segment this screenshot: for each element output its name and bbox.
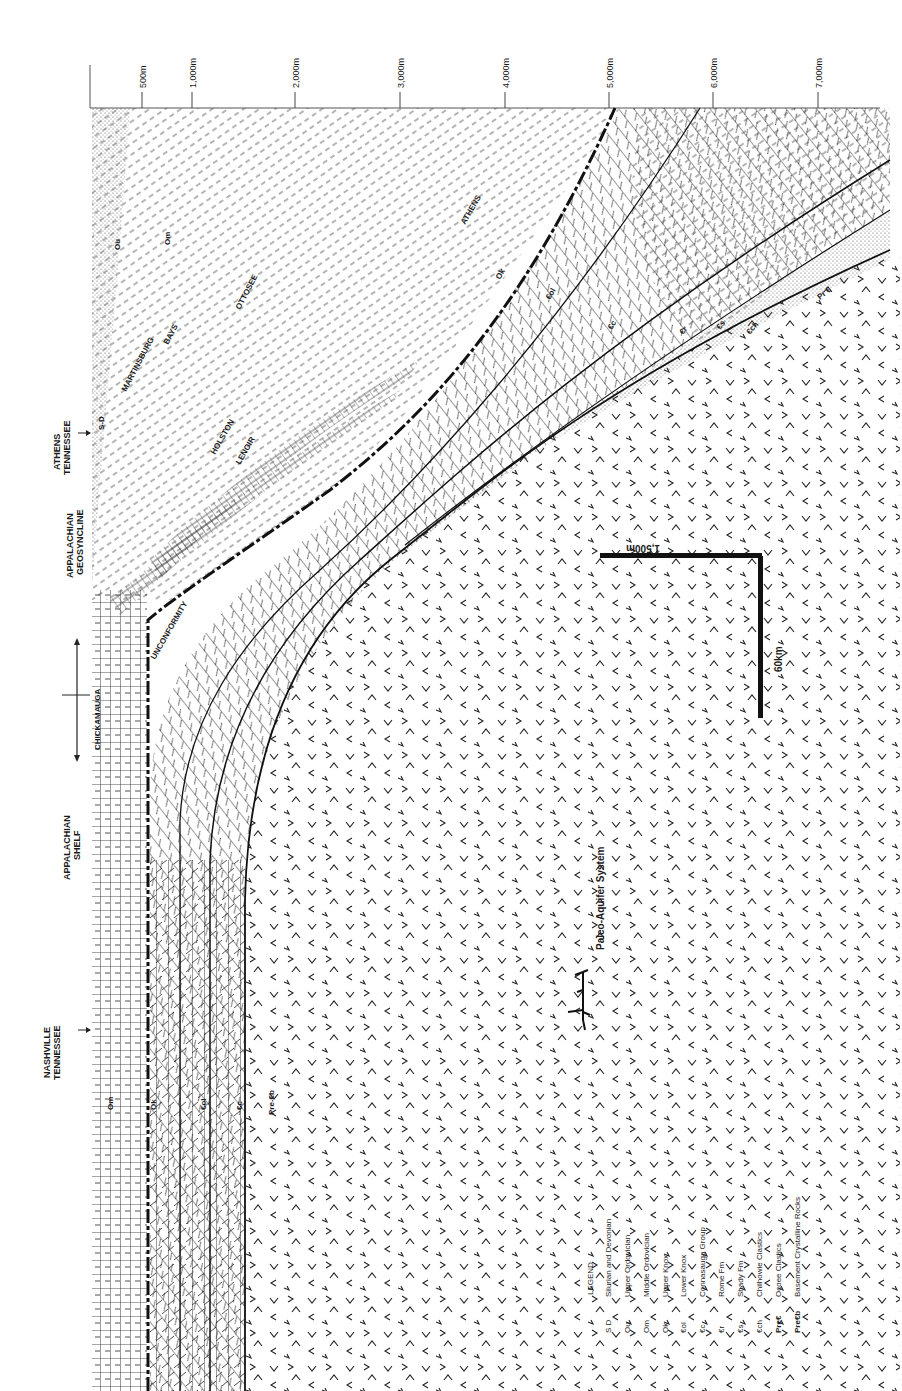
legend-name: Rome Fm: [717, 1262, 726, 1297]
legend-name: Chilhowie Clastics: [755, 1232, 764, 1297]
loc-athens-1: ATHENS: [52, 434, 62, 470]
tick-1000m: 1,000m: [188, 58, 198, 88]
legend-name: Middle Ordovician: [642, 1233, 651, 1297]
legend-code: Om: [642, 1320, 651, 1333]
tick-3000m: 3,000m: [396, 58, 406, 88]
legend-code: Ou: [623, 1322, 632, 1333]
tick-6000m: 6,000m: [709, 58, 719, 88]
loc-geosyncline-1: APPALACHIAN: [65, 513, 75, 578]
tick-500m: 500m: [138, 65, 148, 88]
legend-name: Basement Crystalline Rocks: [793, 1197, 802, 1297]
label-ok-bottom: Ok: [149, 1099, 158, 1110]
legend-code: €c: [698, 1325, 707, 1333]
tick-5000m: 5,000m: [605, 58, 615, 88]
loc-geosyncline-2: GEOSYNCLINE: [75, 509, 85, 575]
label-precb: Pre-€b: [267, 1090, 276, 1115]
legend-code: €ch: [755, 1320, 764, 1333]
legend-name: Lower Knox: [679, 1255, 688, 1297]
legend-code: Pre€: [774, 1315, 783, 1333]
label-chickamauga: CHICKAMAUGA: [93, 688, 102, 750]
label-unconformity: UNCONFORMITY: [149, 599, 190, 661]
legend-name: Shady Fm: [736, 1260, 745, 1297]
unit-cambrian-vertical: [150, 860, 245, 1391]
legend-name: Ocoee Clastics: [774, 1243, 783, 1297]
legend-name: Connasauga Group: [698, 1227, 707, 1297]
label-ou: Ou: [113, 239, 122, 250]
scale-vertical-label: 1,500m: [626, 543, 660, 554]
legend-code: €ol: [679, 1322, 688, 1333]
cross-section-diagram: 500m 1,000m 2,000m 3,000m 4,000m 5,000m …: [0, 0, 902, 1391]
legend-code: S D: [604, 1319, 613, 1333]
legend-code: €r: [717, 1326, 726, 1333]
loc-shelf-2: SHELF: [72, 830, 82, 860]
legend-name: Upper Knox: [661, 1255, 670, 1297]
tick-7000m: 7,000m: [814, 58, 824, 88]
legend-code: €s: [736, 1325, 745, 1333]
tick-2000m: 2,000m: [291, 58, 301, 88]
legend-name: Silurian and Devonian: [604, 1219, 613, 1297]
tick-4000m: 4,000m: [501, 58, 511, 88]
legend-code: Pre€b: [793, 1311, 802, 1333]
loc-athens-2: TENNESSEE: [62, 420, 72, 475]
depth-axis-ticks: [142, 92, 818, 108]
loc-nashville-2: TENNESSEE: [52, 1025, 62, 1080]
label-om-top: Om: [163, 232, 172, 245]
scale-horizontal-label: 60km: [773, 646, 784, 672]
paleo-aquifer-label: Paleo-Aquifer System: [595, 847, 606, 950]
legend-name: Upper Ordovician: [623, 1235, 632, 1297]
label-col-bottom: €ol: [199, 1098, 208, 1110]
label-om-bottom: Om: [106, 1097, 115, 1110]
label-cc-bottom: €c: [235, 1101, 244, 1110]
legend-code: Ok: [661, 1322, 670, 1333]
loc-shelf-1: APPALACHIAN: [62, 815, 72, 880]
legend-title: LEGEND: [586, 1262, 595, 1295]
loc-nashville-1: NASHVILLE: [42, 1027, 52, 1078]
label-sd: S-D: [97, 416, 106, 430]
athens-arrowhead-icon: [86, 430, 91, 436]
